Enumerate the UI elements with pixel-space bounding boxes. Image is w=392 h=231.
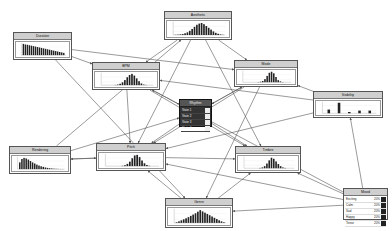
node-mode[interactable]: Mode [234,60,298,87]
state-value: 20% [370,209,380,214]
edge-stability-to-mode [298,86,313,92]
state-row[interactable]: State 4 [181,126,210,132]
state-table: State 1State 2State 3State 4 [181,108,210,125]
state-name: Happy [345,215,370,220]
state-value: 20% [370,221,380,226]
edge-pitch-to-rendering [71,158,96,159]
node-title: Mood [344,189,387,196]
distribution-plot [166,20,230,38]
node-bpm[interactable]: BPM [92,62,160,90]
edge-mood-to-genre [233,205,343,211]
distribution-plot [94,71,158,88]
state-value [194,120,204,125]
node-title: Rendering [10,147,70,154]
state-name: Sad [345,209,370,214]
node-stability[interactable]: Stability [313,91,383,118]
state-name: State 4 [181,126,194,131]
edge-rhythm-to-pitch [152,124,179,143]
edge-genre-to-timbre [218,173,250,198]
state-value: 20% [370,215,380,220]
node-mood[interactable]: MoodExciting20%Calm20%Sad20%Happy20%Tens… [343,188,388,220]
edge-mood-to-timbre [298,173,343,194]
probability-bar [205,120,210,125]
edge-aesthetic-to-bpm [146,40,177,62]
state-name: Tense [345,221,370,226]
edge-pitch-to-timbre [166,158,235,159]
distribution-plot [167,207,231,226]
edge-aesthetic-to-timbre [206,40,261,146]
node-title: Pitch [97,144,165,151]
distribution-plot [237,155,299,171]
node-timbre[interactable]: Timbre [235,146,301,173]
node-title: Mode [235,61,297,68]
distribution-plot [315,100,381,116]
state-name: State 2 [181,114,194,119]
state-value [194,126,204,131]
distribution-plot [98,152,164,169]
state-value: 20% [370,203,380,208]
probability-bar [205,126,210,131]
node-title: Stability [314,92,382,99]
node-title: Rhythm [180,100,211,107]
probability-bar [205,114,210,119]
node-pitch[interactable]: Pitch [96,143,166,171]
edge-rhythm-to-timbre [212,124,247,146]
probability-bar [205,108,210,113]
probability-bar [381,215,386,220]
node-title: BPM [93,63,159,70]
node-rendering[interactable]: Rendering [9,146,71,174]
edge-duration-to-bpm [72,57,92,64]
node-title: Duration [14,33,71,40]
node-aesthetic[interactable]: Aesthetic [164,11,232,40]
edge-bpm-to-pitch [127,90,130,143]
state-name: State 3 [181,120,194,125]
node-genre[interactable]: Genre [165,198,233,228]
probability-bar [381,203,386,208]
node-title: Timbre [236,147,300,154]
state-name: Exciting [345,197,370,202]
probability-bar [381,197,386,202]
distribution-plot [15,41,70,58]
state-value [194,108,204,113]
node-rhythm[interactable]: RhythmState 1State 2State 3State 4 [179,99,212,127]
state-value [194,114,204,119]
edge-mood-to-stability [350,118,362,188]
state-name: State 1 [181,108,194,113]
edge-rendering-to-aesthetic [56,40,181,146]
state-table: Exciting20%Calm20%Sad20%Happy20%Tense20% [345,197,386,218]
edge-genre-to-pitch [148,171,181,198]
edge-aesthetic-to-mode [219,40,247,60]
node-title: Genre [166,199,232,206]
probability-bar [381,209,386,214]
state-row[interactable]: Tense20% [345,221,386,227]
state-value: 20% [370,197,380,202]
probability-bar [381,221,386,226]
node-title: Aesthetic [165,12,231,19]
distribution-plot [236,69,296,85]
state-name: Calm [345,203,370,208]
distribution-plot [11,155,69,172]
node-duration[interactable]: Duration [13,32,72,60]
